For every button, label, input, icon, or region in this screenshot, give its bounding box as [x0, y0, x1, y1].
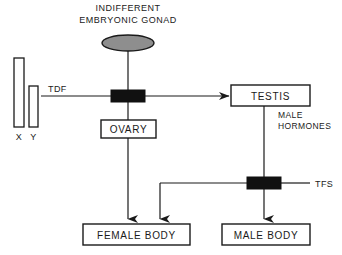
signal-label-male-hormones-line-1: MALE — [278, 110, 303, 120]
signal-label-male-hormones-line-2: HORMONES — [278, 121, 331, 131]
node-label-ovary: OVARY — [110, 124, 148, 135]
diagram-title-line-1: INDIFFERENT — [96, 3, 161, 13]
chromosome-bar-x — [14, 58, 24, 127]
gonad-ellipse — [102, 35, 154, 51]
chromosome-label-x: X — [16, 132, 22, 142]
gate-tfs-switch — [247, 177, 281, 189]
node-label-female-body: FEMALE BODY — [97, 230, 176, 241]
sex-determination-diagram: INDIFFERENT EMBRYONIC GONAD X Y TDF OVAR… — [0, 0, 342, 255]
gate-tdf-switch — [111, 90, 145, 102]
diagram-canvas: INDIFFERENT EMBRYONIC GONAD X Y TDF OVAR… — [0, 0, 342, 255]
diagram-title-line-2: EMBRYONIC GONAD — [79, 15, 176, 25]
node-label-male-body: MALE BODY — [234, 230, 299, 241]
chromosome-bar-y — [29, 86, 38, 127]
signal-label-tfs: TFS — [315, 179, 333, 189]
chromosome-label-y: Y — [30, 132, 36, 142]
signal-label-tdf: TDF — [48, 84, 67, 94]
node-label-testis: TESTIS — [251, 91, 290, 102]
